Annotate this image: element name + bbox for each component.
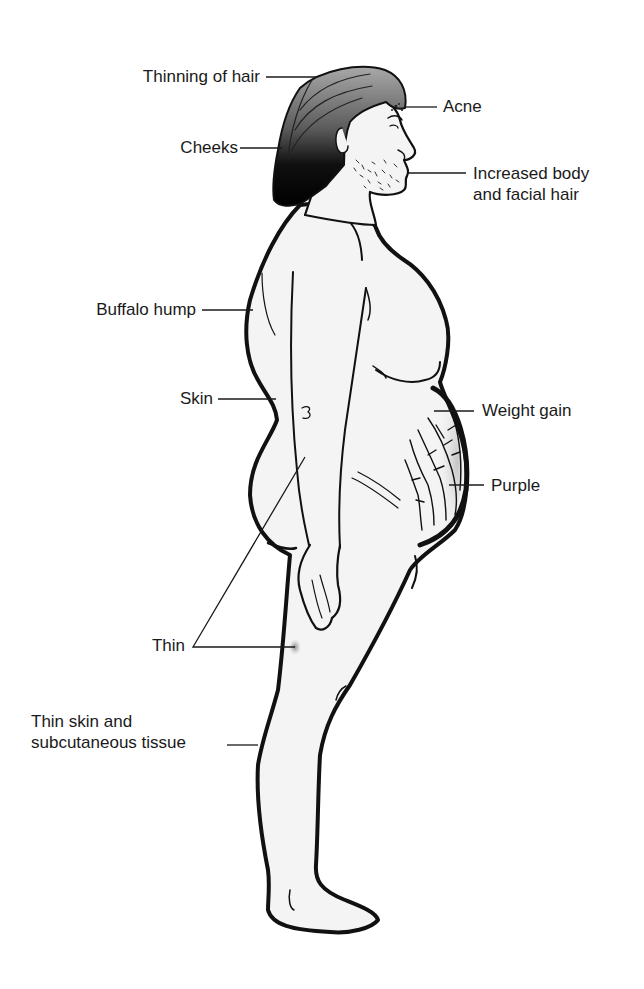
label-cheeks: Cheeks	[150, 137, 238, 158]
label-purple: Purple	[491, 475, 540, 496]
label-thinning-hair: Thinning of hair	[96, 66, 260, 87]
body-illustration	[0, 0, 644, 989]
cushing-diagram: Thinning of hair Acne Cheeks Increased b…	[0, 0, 644, 989]
head	[273, 67, 415, 225]
label-thin-skin: Thin skin and subcutaneous tissue	[31, 711, 186, 753]
label-acne: Acne	[443, 96, 482, 117]
body-silhouette	[246, 204, 466, 932]
label-body-facial-hair: Increased body and facial hair	[473, 163, 589, 205]
label-weight-gain: Weight gain	[482, 400, 571, 421]
label-buffalo-hump: Buffalo hump	[60, 299, 196, 320]
label-skin: Skin	[150, 388, 213, 409]
label-thin: Thin	[120, 635, 185, 656]
